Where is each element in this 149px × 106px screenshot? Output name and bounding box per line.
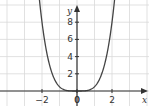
ticks: −20224680	[35, 17, 115, 105]
origin-label: 0	[74, 95, 80, 105]
x-tick-label: −2	[35, 95, 48, 105]
grid	[0, 0, 149, 106]
y-tick-label: 8	[67, 17, 73, 27]
x-axis-label: x	[142, 95, 147, 105]
y-tick-label: 4	[67, 52, 73, 62]
y-tick-label: 6	[67, 34, 73, 44]
y-axis-arrow-icon	[74, 5, 80, 12]
y-axis-label: y	[66, 6, 73, 16]
y-tick-label: 2	[67, 69, 73, 79]
axes	[0, 5, 148, 106]
chart: −20224680 x y	[0, 0, 149, 106]
x-tick-label: 2	[109, 95, 115, 105]
